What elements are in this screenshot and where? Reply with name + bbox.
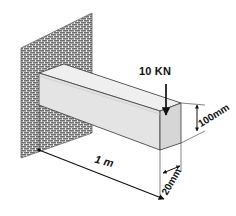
thickness-dimension-label: 20mm bbox=[159, 166, 183, 197]
load-label: 10 KN bbox=[139, 65, 171, 77]
diagram-canvas: 10 KN 100mm 20mm 1 m bbox=[0, 0, 236, 216]
dimension-thickness-20mm: 20mm bbox=[159, 143, 183, 200]
beam-end-face bbox=[160, 103, 181, 150]
height-dimension-label: 100mm bbox=[196, 101, 231, 129]
height-ext-line-bottom bbox=[181, 131, 205, 143]
cantilever-beam-diagram: 10 KN 100mm 20mm 1 m bbox=[0, 0, 236, 216]
length-dimension-label: 1 m bbox=[94, 153, 116, 169]
dimension-height-100mm: 100mm bbox=[181, 101, 231, 143]
height-ext-line-top bbox=[181, 103, 205, 105]
